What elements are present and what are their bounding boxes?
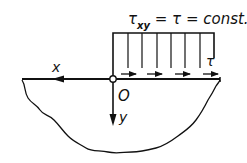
y-axis-arrow-icon <box>110 114 117 126</box>
formula-title: τxy = τ = const. <box>128 10 247 31</box>
stress-block <box>113 33 214 79</box>
x-axis-arrow-icon <box>52 76 64 83</box>
origin-point <box>110 76 116 82</box>
origin-label: O <box>118 87 130 105</box>
tau-label: τ <box>206 53 215 69</box>
shear-load-diagram: τxy = τ = const. τ x y O <box>0 0 247 163</box>
formula-subscript: xy <box>136 20 150 31</box>
x-axis-label: x <box>51 59 61 75</box>
formula-rest: = τ = const. <box>150 10 247 28</box>
y-axis-label: y <box>118 109 128 125</box>
